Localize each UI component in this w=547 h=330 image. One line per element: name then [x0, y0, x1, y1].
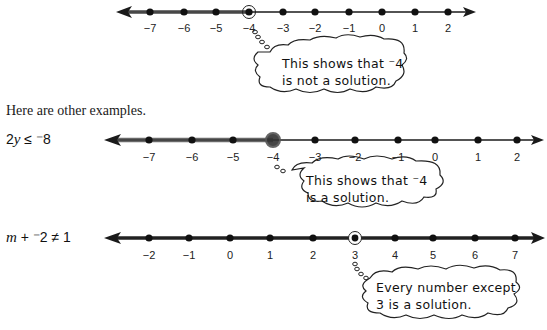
tick-label: −2: [143, 249, 156, 261]
tick-label: −6: [178, 22, 191, 34]
equation-2: 2y ≤ ⁻8: [6, 131, 51, 148]
equation-var: m: [6, 229, 17, 245]
tick-label: 0: [379, 22, 385, 34]
tick-label: −4: [267, 151, 280, 163]
tick-label: 0: [227, 249, 233, 261]
tick-label: −2: [309, 22, 322, 34]
equation-rest: + ⁻2 ≠ 1: [17, 229, 71, 245]
tick-label: 2: [445, 22, 451, 34]
tick-label: 2: [514, 151, 520, 163]
tick-label: 1: [475, 151, 481, 163]
callout-text-3: Every number except 3 is a solution.: [376, 279, 516, 313]
callout-line: This shows that ⁻4: [306, 172, 428, 189]
closed-point-marker: [266, 133, 280, 147]
callout-text-2: This shows that ⁻4 is a solution.: [306, 172, 428, 206]
equation-rhs: ⁻8: [36, 131, 51, 147]
tick-label: −3: [309, 151, 322, 163]
tick-label: 1: [267, 249, 273, 261]
tick-label: −6: [186, 151, 199, 163]
callout-line: This shows that ⁻4: [282, 55, 404, 72]
tick-label: −4: [243, 22, 256, 34]
tick-label: −5: [210, 22, 223, 34]
tick-label: −5: [227, 151, 240, 163]
equation-3: m + ⁻2 ≠ 1: [6, 229, 71, 246]
tick-label: −3: [277, 22, 290, 34]
tick-label: 7: [512, 249, 518, 261]
tick-label: 2: [310, 249, 316, 261]
tick-label: 0: [432, 151, 438, 163]
callout-line: 3 is a solution.: [376, 296, 516, 313]
intro-text: Here are other examples.: [6, 103, 146, 119]
tick-label: 1: [412, 22, 418, 34]
callout-line: is not a solution.: [282, 72, 404, 89]
tick-label: −1: [183, 249, 196, 261]
equation-rel: ≤: [20, 131, 35, 147]
tick-label: −7: [144, 22, 157, 34]
tick-label: −7: [143, 151, 156, 163]
callout-text-1: This shows that ⁻4 is not a solution.: [282, 55, 404, 89]
tick-label: −1: [343, 22, 356, 34]
tick-label: −1: [392, 151, 405, 163]
equation-coef: 2: [6, 131, 14, 147]
tick-label: 4: [392, 249, 398, 261]
callout-line: is a solution.: [306, 189, 428, 206]
tick-label: 6: [472, 249, 478, 261]
callout-line: Every number except: [376, 279, 516, 296]
tick-label: −2: [349, 151, 362, 163]
tick-label: 5: [430, 249, 436, 261]
tick-label: 3: [352, 249, 358, 261]
